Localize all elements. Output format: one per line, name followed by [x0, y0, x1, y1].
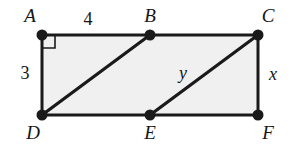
- geometry-diagram: A B C D E F 4 3 y x: [0, 0, 295, 150]
- vertex-label-D: D: [25, 122, 40, 143]
- vertex-label-A: A: [22, 5, 36, 26]
- vertex-label-E: E: [143, 122, 156, 143]
- length-label-AB: 4: [84, 9, 93, 29]
- vertex-label-C: C: [262, 5, 275, 26]
- vertex-dot-E: [145, 110, 156, 121]
- rectangle-interior-fill: [42, 35, 258, 115]
- vertex-dot-A: [37, 30, 48, 41]
- length-label-CF: x: [268, 64, 277, 84]
- vertex-label-F: F: [261, 122, 274, 143]
- length-label-EC: y: [177, 63, 187, 83]
- vertex-dot-B: [145, 30, 156, 41]
- vertex-dot-C: [253, 30, 264, 41]
- vertex-dot-F: [253, 110, 264, 121]
- vertex-dot-D: [37, 110, 48, 121]
- vertex-label-B: B: [144, 5, 156, 26]
- geometry-figure: A B C D E F 4 3 y x: [0, 0, 295, 150]
- length-label-AD: 3: [21, 63, 30, 83]
